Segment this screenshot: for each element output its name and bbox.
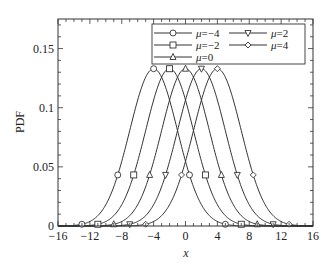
square-marker — [202, 172, 208, 178]
triangle-up-marker — [147, 171, 153, 177]
plot-markers — [79, 65, 292, 228]
pdf-line-chart: −16−12−8−40481216 00.050.10.15 x PDF μ=−… — [0, 0, 333, 266]
circle-marker — [115, 172, 121, 178]
circle-marker — [170, 30, 176, 36]
diamond-marker — [250, 172, 256, 178]
x-tick-label: 4 — [214, 229, 220, 243]
circle-marker — [186, 172, 192, 178]
x-tick-label: −8 — [115, 229, 128, 243]
x-axis-label: x — [182, 246, 189, 260]
diamond-marker — [214, 66, 220, 72]
y-tick-label: 0.15 — [33, 42, 54, 56]
x-tick-labels: −16−12−8−40481216 — [49, 229, 319, 243]
square-marker — [167, 66, 173, 72]
diamond-marker — [179, 172, 185, 178]
legend-label: μ=−4 — [195, 27, 220, 39]
triangle-down-marker — [234, 172, 240, 178]
circle-marker — [151, 66, 157, 72]
y-axis-label: PDF — [13, 111, 27, 133]
series-line — [58, 69, 313, 226]
x-tick-label: 12 — [275, 229, 287, 243]
legend: μ=−4μ=−2μ=0μ=2μ=4 — [152, 24, 305, 64]
y-tick-label: 0.1 — [39, 101, 54, 115]
series-line — [58, 69, 313, 226]
square-marker — [131, 172, 137, 178]
triangle-down-marker — [163, 172, 169, 178]
plot-curves — [58, 69, 313, 226]
x-tick-label: −4 — [147, 229, 160, 243]
series-line — [58, 69, 313, 226]
legend-label: μ=2 — [270, 27, 288, 39]
x-tick-label: 0 — [183, 229, 189, 243]
triangle-up-marker — [218, 171, 224, 177]
triangle-up-marker — [183, 65, 189, 71]
legend-label: μ=4 — [270, 39, 289, 51]
y-tick-labels: 00.050.10.15 — [33, 42, 54, 233]
series-line — [58, 69, 313, 226]
x-tick-label: −12 — [80, 229, 99, 243]
y-tick-label: 0 — [48, 219, 54, 233]
square-marker — [170, 42, 176, 48]
x-tick-label: 8 — [246, 229, 252, 243]
x-tick-label: 16 — [307, 229, 319, 243]
legend-label: μ=−2 — [195, 39, 219, 51]
y-tick-label: 0.05 — [33, 160, 54, 174]
series-line — [58, 69, 313, 226]
legend-label: μ=0 — [195, 51, 214, 63]
